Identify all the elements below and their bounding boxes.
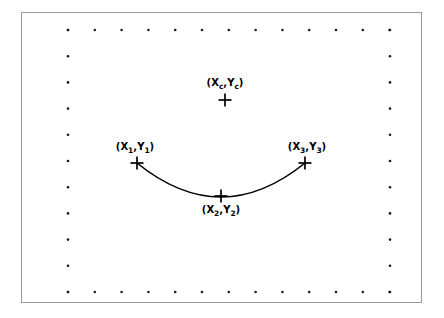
tick-dot <box>174 29 177 32</box>
label-point-3: (X3,Y3) <box>288 142 326 152</box>
tick-dot <box>389 238 392 241</box>
label-p2-sub2: 2 <box>230 209 235 218</box>
label-p1-suffix: ) <box>150 141 155 152</box>
tick-dot <box>201 291 204 294</box>
tick-dot <box>94 291 97 294</box>
tick-dot <box>67 212 70 215</box>
tick-dot <box>389 29 392 32</box>
tick-dot <box>389 55 392 58</box>
tick-dot <box>228 29 231 32</box>
label-p3-prefix: (X <box>288 141 300 152</box>
label-center-sub1: c <box>219 82 223 91</box>
tick-dot <box>67 134 70 137</box>
tick-dot <box>67 55 70 58</box>
tick-dot <box>94 29 97 32</box>
label-center-point: (Xc,Yc) <box>207 78 244 88</box>
label-p1-prefix: (X <box>116 141 128 152</box>
tick-dot <box>67 29 70 32</box>
tick-dot <box>335 29 338 32</box>
marker-center <box>219 94 232 107</box>
tick-dot <box>389 291 392 294</box>
label-p2-sub1: 2 <box>214 209 219 218</box>
tick-dot <box>147 291 150 294</box>
tick-dot <box>389 81 392 84</box>
label-p3-mid: ,Y <box>305 141 316 152</box>
label-point-2: (X2,Y2) <box>202 205 240 215</box>
label-p2-prefix: (X <box>202 204 214 215</box>
label-center-sub2: c <box>234 82 238 91</box>
tick-dot <box>120 29 123 32</box>
label-p3-sub2: 3 <box>316 146 321 155</box>
tick-dot <box>389 107 392 110</box>
tick-dot <box>67 81 70 84</box>
label-center-mid: ,Y <box>223 77 234 88</box>
tick-dot <box>67 186 70 189</box>
tick-dot <box>281 29 284 32</box>
tick-dot <box>67 291 70 294</box>
point-markers <box>131 94 312 203</box>
tick-dot <box>254 291 257 294</box>
tick-dot <box>389 134 392 137</box>
tick-dot <box>308 291 311 294</box>
tick-dot <box>389 212 392 215</box>
tick-dot <box>228 291 231 294</box>
tick-dot <box>67 265 70 268</box>
label-center-prefix: (X <box>207 77 219 88</box>
label-point-1: (X1,Y1) <box>116 142 154 152</box>
tick-dot <box>389 265 392 268</box>
tick-dot <box>201 29 204 32</box>
tick-dot <box>67 107 70 110</box>
plot-svg <box>0 0 444 318</box>
label-p3-sub1: 3 <box>300 146 305 155</box>
label-p2-suffix: ) <box>236 204 241 215</box>
tick-dot <box>362 29 365 32</box>
tick-dot <box>67 238 70 241</box>
tick-dot <box>308 29 311 32</box>
label-p1-mid: ,Y <box>133 141 144 152</box>
tick-dot <box>281 291 284 294</box>
label-p1-sub2: 1 <box>144 146 149 155</box>
tick-dot <box>389 186 392 189</box>
tick-dot-grid <box>67 29 392 294</box>
tick-dot <box>335 291 338 294</box>
tick-dot <box>174 291 177 294</box>
tick-dot <box>147 29 150 32</box>
tick-dot <box>120 291 123 294</box>
tick-dot <box>67 160 70 163</box>
marker-p2 <box>215 190 228 203</box>
tick-dot <box>362 291 365 294</box>
label-p1-sub1: 1 <box>128 146 133 155</box>
tick-dot <box>254 29 257 32</box>
label-p2-mid: ,Y <box>219 204 230 215</box>
tick-dot <box>389 160 392 163</box>
label-center-suffix: ) <box>239 77 244 88</box>
label-p3-suffix: ) <box>322 141 327 152</box>
figure-canvas: (Xc,Yc) (X1,Y1) (X2,Y2) (X3,Y3) <box>0 0 444 318</box>
